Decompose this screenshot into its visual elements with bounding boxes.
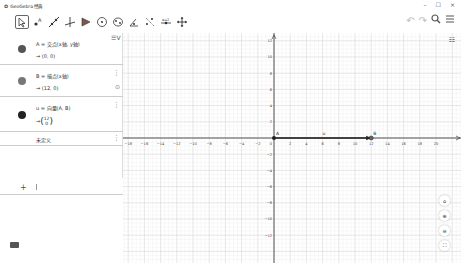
svg-text:−12: −12 (264, 234, 272, 238)
circle-tool[interactable] (95, 15, 109, 29)
svg-text:−10: −10 (189, 142, 197, 146)
svg-text:−4: −4 (267, 169, 273, 173)
point-A[interactable] (272, 136, 276, 140)
point-B[interactable] (369, 136, 373, 140)
more-options-undefined-icon[interactable]: ⋮ (113, 134, 120, 142)
svg-text:−6: −6 (267, 185, 273, 189)
graphics-style-bar-toggle[interactable]: ☷ (449, 36, 455, 44)
more-options-u-icon[interactable]: ⋮ (113, 101, 120, 109)
close-button[interactable]: × (450, 1, 455, 8)
toolbar: A a=2 (0, 11, 461, 33)
point-tool[interactable]: A (31, 15, 45, 29)
svg-text:−14: −14 (157, 142, 165, 146)
svg-text:2: 2 (270, 120, 272, 124)
point-A-label: A (276, 131, 280, 136)
minimize-button[interactable]: – (424, 1, 427, 8)
svg-text:−2: −2 (255, 142, 260, 146)
reflect-tool[interactable] (143, 15, 157, 29)
graphics-view[interactable]: −18−16−14−12−10−8−6−4−202468101214161820… (123, 33, 461, 263)
hamburger-icon (445, 14, 455, 24)
keyboard-icon[interactable] (10, 242, 19, 248)
toolbar-right: ↶ ↷ (406, 14, 455, 26)
home-button[interactable]: ⌂ (439, 195, 450, 206)
point-A-visibility-toggle[interactable] (18, 45, 26, 53)
svg-text:20: 20 (434, 142, 439, 146)
search-button[interactable] (431, 14, 441, 26)
svg-text:8: 8 (338, 142, 341, 146)
redo-button[interactable]: ↷ (419, 15, 427, 26)
reflect-icon (144, 16, 156, 28)
algebra-input-row[interactable]: + (0, 181, 123, 195)
svg-text:−8: −8 (267, 201, 273, 205)
move-graphics-tool[interactable] (175, 15, 189, 29)
algebra-item-B[interactable]: B = 描点(x轴) → (12, 0) ⋮ ⊙ (0, 65, 123, 97)
move-arrows-icon (176, 16, 188, 28)
svg-text:8: 8 (270, 72, 273, 76)
svg-text:18: 18 (418, 142, 423, 146)
geogebra-logo-icon: ✿ (4, 3, 8, 9)
menu-button[interactable] (445, 14, 455, 26)
svg-text:6: 6 (270, 88, 273, 92)
svg-text:14: 14 (385, 142, 390, 146)
svg-text:10: 10 (267, 55, 272, 59)
zoom-out-button[interactable]: ⊖ (439, 225, 450, 236)
ellipse-icon (112, 16, 124, 28)
svg-text:−4: −4 (239, 142, 245, 146)
line-tool[interactable] (47, 15, 61, 29)
value-A: → (0, 0) (36, 53, 55, 59)
maximize-button[interactable]: ☐ (436, 1, 441, 8)
more-options-B-icon[interactable]: ⋮ (113, 69, 120, 77)
move-tool[interactable] (15, 15, 29, 29)
angle-icon (128, 16, 140, 28)
algebra-style-toggle[interactable]: ☰V (111, 34, 120, 41)
svg-text:−6: −6 (223, 142, 229, 146)
slider-tool[interactable]: a=2 (159, 15, 173, 29)
line-icon (48, 16, 60, 28)
value-B: → (12, 0) (36, 85, 58, 91)
definition-A[interactable]: A = 交点(x轴, y轴) (36, 40, 80, 47)
perpendicular-tool[interactable] (63, 15, 77, 29)
zoom-in-button[interactable]: ⊕ (439, 210, 450, 221)
angle-tool[interactable] (127, 15, 141, 29)
polygon-icon (80, 16, 92, 28)
add-input-button[interactable]: + (20, 183, 27, 192)
slider-icon: a=2 (160, 16, 172, 28)
svg-text:0: 0 (270, 142, 273, 146)
svg-text:−16: −16 (141, 142, 149, 146)
conic-tool[interactable] (111, 15, 125, 29)
vector-u-visibility-toggle[interactable] (18, 111, 26, 119)
title-bar: ✿ GeoGebra 经典 – ☐ × (0, 0, 461, 11)
fullscreen-button[interactable]: ⛶ (439, 240, 450, 251)
undo-button[interactable]: ↶ (406, 15, 414, 26)
zoom-in-icon: ⊕ (442, 213, 446, 219)
cursor-icon (16, 16, 28, 28)
value-u: → (120) (36, 116, 53, 126)
vector-u-label: u (323, 131, 326, 136)
algebra-item-A[interactable]: A = 交点(x轴, y轴) → (0, 0) (0, 33, 123, 65)
animate-B-icon[interactable]: ⊙ (115, 83, 120, 90)
svg-text:6: 6 (321, 142, 324, 146)
undefined-label: 未定义 (36, 136, 51, 143)
window-title: GeoGebra 经典 (10, 3, 42, 9)
graphics-canvas[interactable]: −18−16−14−12−10−8−6−4−202468101214161820… (123, 33, 461, 263)
home-icon: ⌂ (443, 198, 446, 204)
polygon-tool[interactable] (79, 15, 93, 29)
svg-text:12: 12 (267, 39, 272, 43)
algebra-item-u[interactable]: u = 向量(A, B) → (120) ⋮ (0, 97, 123, 132)
svg-text:−18: −18 (124, 142, 132, 146)
svg-text:A: A (38, 17, 42, 23)
algebra-item-undefined[interactable]: 未定义 ⋮ (0, 132, 123, 146)
svg-text:a=2: a=2 (162, 18, 169, 22)
circle-icon (96, 16, 108, 28)
definition-u[interactable]: u = 向量(A, B) (36, 104, 70, 111)
svg-text:16: 16 (401, 142, 406, 146)
svg-text:−10: −10 (264, 217, 272, 221)
svg-text:−2: −2 (267, 153, 272, 157)
perpendicular-icon (64, 16, 76, 28)
point-B-label: B (373, 131, 376, 136)
zoom-out-icon: ⊖ (442, 228, 446, 234)
fullscreen-icon: ⛶ (443, 242, 447, 249)
point-B-visibility-toggle[interactable] (18, 77, 26, 85)
definition-B[interactable]: B = 描点(x轴) (36, 72, 69, 79)
svg-text:4: 4 (270, 104, 273, 108)
